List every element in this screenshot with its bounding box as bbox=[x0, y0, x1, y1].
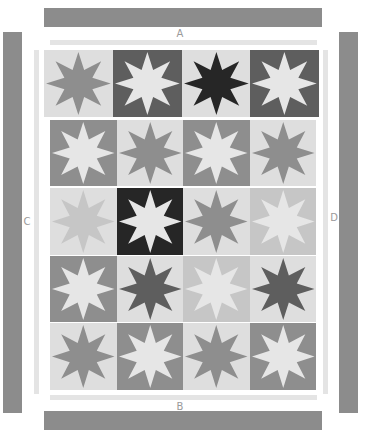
quilt-block bbox=[50, 188, 117, 255]
border-top-strip bbox=[50, 40, 317, 45]
eight-point-star-icon bbox=[117, 256, 184, 322]
eight-point-star-icon bbox=[250, 256, 317, 322]
quilt-row-2 bbox=[50, 120, 316, 186]
quilt-row-1 bbox=[44, 50, 319, 117]
quilt-row-3 bbox=[50, 188, 316, 255]
eight-point-star-icon bbox=[50, 120, 117, 186]
quilt-block bbox=[117, 323, 184, 390]
eight-point-star-icon bbox=[250, 50, 319, 117]
quilt-block bbox=[250, 256, 317, 322]
eight-point-star-icon bbox=[183, 120, 250, 186]
border-label-a: A bbox=[172, 29, 188, 39]
quilt-block bbox=[117, 256, 184, 322]
eight-point-star-icon bbox=[250, 188, 317, 255]
border-bottom-bar bbox=[44, 411, 322, 430]
quilt-row-4 bbox=[50, 256, 316, 322]
eight-point-star-icon bbox=[113, 50, 182, 117]
quilt-block bbox=[113, 50, 182, 117]
quilt-block bbox=[250, 323, 317, 390]
quilt-block bbox=[50, 256, 117, 322]
quilt-block bbox=[183, 120, 250, 186]
quilt-block bbox=[250, 120, 317, 186]
eight-point-star-icon bbox=[50, 256, 117, 322]
eight-point-star-icon bbox=[250, 323, 317, 390]
quilt-block bbox=[183, 256, 250, 322]
eight-point-star-icon bbox=[117, 323, 184, 390]
eight-point-star-icon bbox=[117, 120, 184, 186]
quilt-block bbox=[117, 188, 184, 255]
quilt-block bbox=[250, 50, 319, 117]
eight-point-star-icon bbox=[183, 323, 250, 390]
eight-point-star-icon bbox=[183, 188, 250, 255]
quilt-block bbox=[183, 188, 250, 255]
quilt-block bbox=[250, 188, 317, 255]
eight-point-star-icon bbox=[44, 50, 113, 117]
quilt-block bbox=[50, 120, 117, 186]
border-label-c: C bbox=[20, 217, 34, 227]
eight-point-star-icon bbox=[50, 188, 117, 255]
quilt-block bbox=[117, 120, 184, 186]
border-top-bar bbox=[44, 8, 322, 27]
border-bottom-strip bbox=[50, 395, 317, 400]
eight-point-star-icon bbox=[250, 120, 317, 186]
quilt-row-5 bbox=[50, 323, 316, 390]
eight-point-star-icon bbox=[117, 188, 184, 255]
quilt-block bbox=[50, 323, 117, 390]
eight-point-star-icon bbox=[50, 323, 117, 390]
border-right-bar bbox=[339, 32, 358, 413]
border-left-strip bbox=[34, 50, 39, 394]
eight-point-star-icon bbox=[183, 256, 250, 322]
border-label-d: D bbox=[327, 213, 341, 223]
quilt-block bbox=[183, 323, 250, 390]
quilt-block bbox=[44, 50, 113, 117]
border-right-strip bbox=[323, 50, 328, 394]
quilt-block bbox=[182, 50, 251, 117]
eight-point-star-icon bbox=[182, 50, 251, 117]
